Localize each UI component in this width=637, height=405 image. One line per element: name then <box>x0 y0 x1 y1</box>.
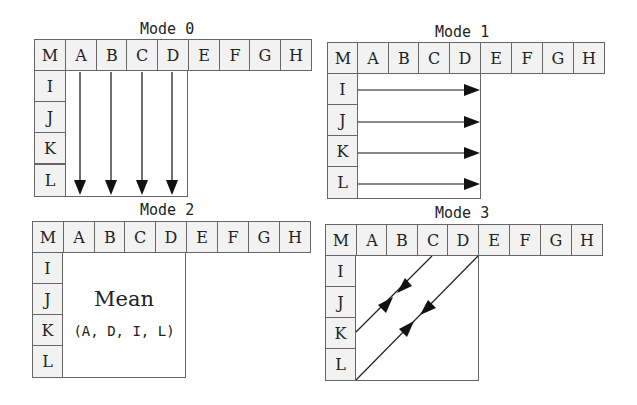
panel-mode-3: Mode 3 M A B C D E F G H I J K L <box>0 0 637 405</box>
diagonal-arrows <box>0 0 637 405</box>
